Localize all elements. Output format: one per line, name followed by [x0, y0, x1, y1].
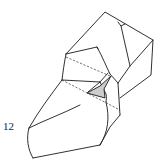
step-number-label: 12 — [3, 120, 14, 132]
model-outline — [28, 12, 153, 158]
folded-model-drawing — [0, 0, 163, 165]
valley-fold-line-lower — [62, 80, 120, 110]
origami-diagram: 12 — [0, 0, 163, 165]
fold-lines — [62, 57, 120, 110]
